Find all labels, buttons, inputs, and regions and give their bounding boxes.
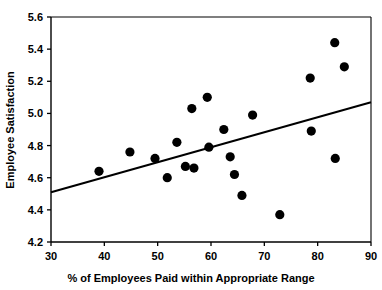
y-tick-label: 5.0 — [28, 107, 43, 119]
scatter-point — [237, 191, 246, 200]
scatter-point — [189, 163, 198, 172]
scatter-plot-figure: 30405060708090 4.24.44.64.85.05.25.45.6 … — [0, 0, 382, 290]
scatter-point — [307, 127, 316, 136]
y-axis-title: Employee Satisfaction — [4, 71, 16, 189]
y-tick-label: 5.2 — [28, 75, 43, 87]
chart-background — [0, 0, 382, 290]
scatter-point — [125, 147, 134, 156]
x-tick-label: 40 — [98, 250, 110, 262]
scatter-point — [204, 143, 213, 152]
y-tick-label: 4.8 — [28, 140, 43, 152]
scatter-point — [331, 154, 340, 163]
y-tick-label: 4.2 — [28, 236, 43, 248]
x-tick-label: 60 — [205, 250, 217, 262]
scatter-point — [226, 152, 235, 161]
scatter-point — [219, 125, 228, 134]
scatter-point — [330, 38, 339, 47]
y-tick-label: 5.4 — [28, 43, 44, 55]
scatter-point — [181, 162, 190, 171]
scatter-point — [248, 110, 257, 119]
scatter-point — [203, 93, 212, 102]
x-tick-label: 90 — [365, 250, 377, 262]
scatter-point — [94, 167, 103, 176]
scatter-point — [340, 62, 349, 71]
scatter-point — [163, 173, 172, 182]
x-tick-label: 50 — [152, 250, 164, 262]
scatter-point — [230, 170, 239, 179]
x-tick-label: 80 — [312, 250, 324, 262]
x-tick-label: 70 — [258, 250, 270, 262]
y-tick-label: 5.6 — [28, 11, 43, 23]
scatter-point — [150, 154, 159, 163]
x-axis-title: % of Employees Paid within Appropriate R… — [67, 272, 314, 284]
scatter-point — [172, 138, 181, 147]
chart-canvas: 30405060708090 4.24.44.64.85.05.25.45.6 … — [0, 0, 382, 290]
scatter-point — [187, 104, 196, 113]
y-tick-label: 4.4 — [28, 204, 44, 216]
y-tick-label: 4.6 — [28, 172, 43, 184]
scatter-point — [306, 73, 315, 82]
x-tick-label: 30 — [45, 250, 57, 262]
scatter-point — [275, 210, 284, 219]
